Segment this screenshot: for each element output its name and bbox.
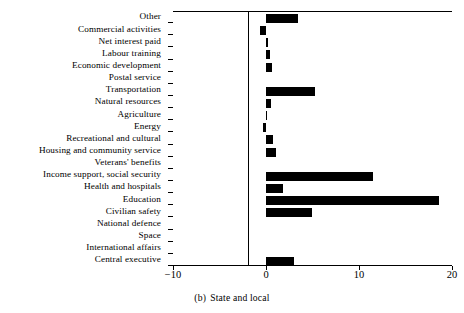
bar-row bbox=[173, 169, 452, 181]
y-axis-label: Natural resources bbox=[0, 96, 166, 108]
bar bbox=[260, 26, 266, 35]
y-axis-category-labels: OtherCommercial activitiesNet interest p… bbox=[0, 11, 166, 266]
y-axis-label: Housing and community service bbox=[0, 145, 166, 157]
bar-row bbox=[173, 157, 452, 169]
bar bbox=[266, 111, 267, 120]
y-axis-label: Education bbox=[0, 193, 166, 205]
bar-row bbox=[173, 145, 452, 157]
y-axis-label: Veterans' benefits bbox=[0, 157, 166, 169]
bar-series bbox=[173, 11, 452, 266]
y-axis-label: National defence bbox=[0, 217, 166, 229]
x-axis-tick-labels: −1001020 bbox=[0, 269, 464, 283]
bar-row bbox=[173, 11, 452, 23]
bar bbox=[266, 14, 298, 23]
bar-row bbox=[173, 205, 452, 217]
bar bbox=[266, 99, 271, 108]
x-tick-label: 0 bbox=[263, 269, 268, 280]
caption-index: (b) bbox=[194, 292, 206, 303]
bar bbox=[266, 196, 439, 205]
y-axis-label: Health and hospitals bbox=[0, 181, 166, 193]
bar bbox=[266, 172, 373, 181]
bar-row bbox=[173, 254, 452, 266]
bar bbox=[266, 50, 270, 59]
bar-row bbox=[173, 120, 452, 132]
bar-row bbox=[173, 23, 452, 35]
y-axis-label: Labour training bbox=[0, 47, 166, 59]
y-axis-label: Transportation bbox=[0, 84, 166, 96]
y-axis-label: Income support, social security bbox=[0, 169, 166, 181]
bar bbox=[266, 208, 312, 217]
figure-caption: (b)State and local bbox=[0, 292, 464, 303]
y-axis-label: Recreational and cultural bbox=[0, 132, 166, 144]
bar-row bbox=[173, 217, 452, 229]
bar bbox=[266, 148, 276, 157]
bar-row bbox=[173, 47, 452, 59]
bar-row bbox=[173, 132, 452, 144]
bar-row bbox=[173, 96, 452, 108]
x-tick-label: 20 bbox=[447, 269, 458, 280]
bar-row bbox=[173, 84, 452, 96]
figure-state-and-local: OtherCommercial activitiesNet interest p… bbox=[0, 0, 464, 313]
bar bbox=[266, 184, 283, 193]
bar bbox=[266, 87, 315, 96]
bar bbox=[266, 135, 273, 144]
y-axis-label: Postal service bbox=[0, 72, 166, 84]
y-axis-label: Space bbox=[0, 230, 166, 242]
bar bbox=[266, 38, 268, 47]
bar bbox=[266, 63, 272, 72]
y-axis-label: Energy bbox=[0, 120, 166, 132]
y-axis-label: Agriculture bbox=[0, 108, 166, 120]
bar-row bbox=[173, 72, 452, 84]
bar-row bbox=[173, 108, 452, 120]
y-axis-label: Civilian safety bbox=[0, 205, 166, 217]
x-tick-label: −10 bbox=[165, 269, 181, 280]
bar bbox=[266, 257, 294, 266]
bar-row bbox=[173, 181, 452, 193]
bar-row bbox=[173, 35, 452, 47]
bar-row bbox=[173, 242, 452, 254]
y-axis-label: International affairs bbox=[0, 242, 166, 254]
bar-row bbox=[173, 193, 452, 205]
y-axis-label: Other bbox=[0, 11, 166, 23]
y-axis-label: Economic development bbox=[0, 60, 166, 72]
caption-text: State and local bbox=[210, 292, 269, 303]
y-axis-label: Commercial activities bbox=[0, 23, 166, 35]
bar-row bbox=[173, 230, 452, 242]
y-axis-label: Central executive bbox=[0, 254, 166, 266]
bar bbox=[263, 123, 266, 132]
x-tick-label: 10 bbox=[354, 269, 365, 280]
y-axis-label: Net interest paid bbox=[0, 35, 166, 47]
bar-row bbox=[173, 60, 452, 72]
